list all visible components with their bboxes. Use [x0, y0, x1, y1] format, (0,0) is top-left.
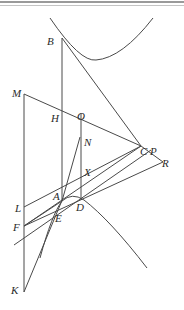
label-l: L: [14, 202, 21, 214]
label-x: X: [83, 166, 92, 178]
lower-parabola: [40, 196, 147, 268]
label-d: D: [75, 201, 84, 213]
label-m: M: [11, 87, 22, 99]
tangent-line-bc: [62, 38, 141, 146]
label-b: B: [47, 35, 54, 47]
line-fr: [24, 162, 163, 226]
geometry-diagram: B M H O N C P R X A D L E F K: [0, 0, 184, 310]
label-c: C: [140, 145, 148, 157]
label-n: N: [83, 136, 92, 148]
label-r: R: [161, 157, 169, 169]
line-fp: [14, 150, 151, 245]
label-f: F: [12, 221, 20, 233]
label-o: O: [77, 110, 85, 122]
line-an: [62, 137, 80, 201]
label-a: A: [52, 190, 60, 202]
upper-parabola: [50, 18, 153, 60]
label-k: K: [10, 284, 19, 296]
label-e: E: [54, 212, 62, 224]
label-h: H: [50, 112, 60, 124]
label-p: P: [149, 145, 157, 157]
